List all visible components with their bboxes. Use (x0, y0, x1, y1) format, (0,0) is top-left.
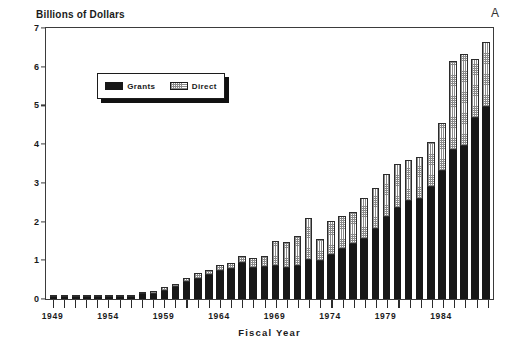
bar-slot (170, 28, 181, 299)
bar-segment-grants (283, 268, 291, 299)
x-axis-tick (471, 300, 482, 309)
bar-segment-grants (405, 201, 413, 299)
stacked-bar (383, 174, 391, 299)
stacked-bar (72, 295, 80, 299)
bar-segment-grants (139, 294, 147, 299)
bar-segment-direct (449, 61, 457, 150)
bar-segment-direct (294, 236, 302, 265)
x-axis-tick (326, 300, 337, 309)
legend-item-direct: Direct (170, 82, 217, 91)
bar-segment-grants (105, 297, 113, 299)
stacked-bar (139, 292, 147, 299)
bar-segment-grants (194, 279, 202, 299)
stacked-bar (183, 278, 191, 299)
x-axis-tick (437, 300, 448, 309)
bar-segment-direct (327, 221, 335, 255)
x-axis-tick (382, 300, 393, 309)
stacked-bar (460, 54, 468, 299)
x-axis-tick (359, 300, 370, 309)
bar-slot (214, 28, 225, 299)
bar-slot (248, 28, 259, 299)
stacked-bar (427, 142, 435, 299)
bar-segment-direct (482, 42, 490, 107)
y-axis-tick-label: 1 (34, 255, 46, 265)
bar-segment-direct (349, 212, 357, 245)
x-axis-tick (192, 300, 203, 309)
stacked-bar (327, 221, 335, 299)
bar-slot (370, 28, 381, 299)
bar-segment-grants (127, 297, 135, 299)
bar-segment-direct (261, 256, 269, 267)
x-axis-tick (371, 300, 382, 309)
bar-segment-grants (183, 282, 191, 299)
x-axis-tick (136, 300, 147, 309)
bar-segment-grants (83, 297, 91, 299)
bar-segment-grants (360, 239, 368, 299)
x-axis-tick-labels: 19491954195919641969197419791984 (45, 311, 494, 325)
stacked-bar (449, 61, 457, 299)
x-axis-tick-label: 1954 (97, 311, 119, 321)
bar-slot (381, 28, 392, 299)
bar-slot (237, 28, 248, 299)
x-axis-tick-label: 1969 (264, 311, 286, 321)
x-axis-tick-label: 1964 (208, 311, 230, 321)
bar-slot (336, 28, 347, 299)
y-axis-title: Billions of Dollars (36, 9, 125, 20)
stacked-bar (349, 212, 357, 299)
stacked-bar (161, 287, 169, 299)
bar-slot (226, 28, 237, 299)
x-axis-tick (147, 300, 158, 309)
x-axis-tick (237, 300, 248, 309)
bar-slot (447, 28, 458, 299)
x-axis-tick (125, 300, 136, 309)
bar-segment-grants (316, 261, 324, 299)
bar-slot (270, 28, 281, 299)
x-axis-tick (248, 300, 259, 309)
bar-slot (203, 28, 214, 299)
stacked-bar (360, 198, 368, 299)
bar-slot (81, 28, 92, 299)
bar-slot (192, 28, 203, 299)
bar-slot (314, 28, 325, 299)
stacked-bar (294, 236, 302, 299)
bar-segment-grants (482, 107, 490, 299)
bar-slot (159, 28, 170, 299)
bar-segment-direct (427, 142, 435, 187)
panel-letter-annotation: A (491, 6, 499, 20)
bar-segment-grants (261, 267, 269, 299)
bar-segment-direct (338, 216, 346, 249)
stacked-bar (438, 123, 446, 299)
x-axis-tick (449, 300, 460, 309)
legend-swatch-grants-icon (105, 82, 123, 90)
bar-segment-grants (372, 229, 380, 299)
bar-segment-grants (416, 199, 424, 299)
stacked-bar (372, 188, 380, 299)
bar-segment-direct (316, 239, 324, 261)
x-axis-tick (460, 300, 471, 309)
bar-segment-grants (249, 268, 257, 299)
bar-segment-direct (460, 54, 468, 146)
stacked-bar (194, 273, 202, 299)
bar-segment-grants (227, 269, 235, 299)
stacked-bar (482, 42, 490, 299)
bar-segment-grants (460, 146, 468, 299)
y-axis-tick-label: 6 (34, 62, 46, 72)
bar-series-container (46, 28, 493, 299)
x-axis-tick (292, 300, 303, 309)
stacked-bar (394, 164, 402, 299)
bar-segment-grants (94, 297, 102, 299)
y-axis-tick-label: 2 (34, 217, 46, 227)
bar-segment-grants (216, 271, 224, 299)
stacked-bar (61, 295, 69, 299)
bar-slot (481, 28, 492, 299)
stacked-bar (172, 284, 180, 299)
x-axis-title: Fiscal Year (45, 327, 494, 338)
bar-segment-direct (394, 164, 402, 207)
x-axis-tick (426, 300, 437, 309)
bar-segment-grants (116, 297, 124, 299)
bar-segment-grants (205, 275, 213, 299)
bar-slot (137, 28, 148, 299)
x-axis-tick-label: 1949 (42, 311, 64, 321)
bar-slot (436, 28, 447, 299)
stacked-bar (405, 160, 413, 299)
